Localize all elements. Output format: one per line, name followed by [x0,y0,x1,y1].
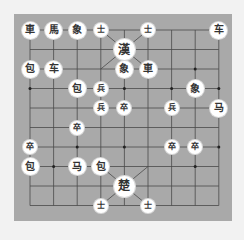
piece-horse[interactable]: 马 [69,158,86,175]
piece-chariot[interactable]: 车 [45,61,62,78]
piece-cannon[interactable]: 包 [22,61,39,78]
piece-soldier[interactable]: 卒 [165,140,179,154]
piece-horse[interactable]: 马 [210,100,227,117]
piece-general[interactable]: 漢 [114,39,135,60]
piece-chariot[interactable]: 車 [140,61,157,78]
piece-elephant[interactable]: 象 [187,80,204,97]
piece-advisor[interactable]: 士 [141,23,155,37]
piece-soldier[interactable]: 卒 [70,121,84,135]
piece-cannon[interactable]: 包 [22,158,39,175]
piece-elephant[interactable]: 象 [116,61,133,78]
piece-advisor[interactable]: 士 [141,199,155,213]
piece-soldier[interactable]: 兵 [94,101,108,115]
piece-horse[interactable]: 馬 [45,22,62,39]
piece-soldier[interactable]: 兵 [165,101,179,115]
piece-soldier[interactable]: 兵 [94,82,108,96]
piece-general[interactable]: 楚 [114,176,135,197]
piece-advisor[interactable]: 士 [94,23,108,37]
piece-elephant[interactable]: 象 [69,22,86,39]
piece-chariot[interactable]: 車 [22,22,39,39]
piece-soldier[interactable]: 卒 [23,140,37,154]
piece-chariot[interactable]: 车 [210,22,227,39]
piece-advisor[interactable]: 士 [94,199,108,213]
piece-cannon[interactable]: 包 [69,80,86,97]
